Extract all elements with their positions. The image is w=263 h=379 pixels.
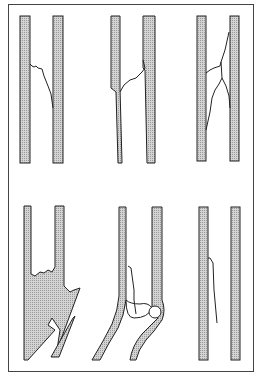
panel-comminuted-fracture [197, 16, 239, 161]
panel-open-fracture [24, 206, 80, 360]
panel-oblique-fracture [111, 16, 155, 163]
panel-transverse-fracture [20, 16, 63, 163]
fracture-diagram [0, 0, 263, 379]
panel-fissure-fracture [199, 207, 240, 360]
panel-joint-fracture [92, 207, 164, 360]
